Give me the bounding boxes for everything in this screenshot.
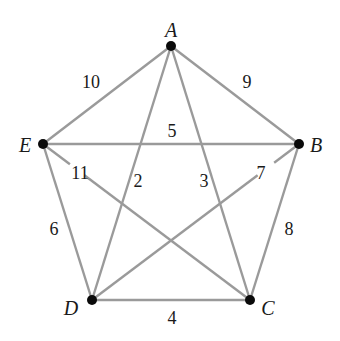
weight-label-ad: 2 xyxy=(134,171,143,191)
weight-label-bc: 8 xyxy=(285,219,294,239)
edge-a-e-line xyxy=(43,46,171,144)
vertex-b-dot xyxy=(294,139,304,149)
vertex-label-a: A xyxy=(163,19,178,41)
vertex-label-b: B xyxy=(310,134,322,156)
vertex-e-dot xyxy=(38,139,48,149)
edge-a-e xyxy=(43,46,171,144)
edge-b-d xyxy=(92,144,299,300)
vertex-labels-layer: ABCDE xyxy=(18,19,322,319)
weight-label-ac: 3 xyxy=(200,171,209,191)
edge-a-b-line xyxy=(171,46,299,144)
weight-label-dc: 4 xyxy=(168,308,177,328)
edge-a-c-line xyxy=(171,46,250,300)
edge-a-d-line xyxy=(92,46,171,300)
vertex-label-e: E xyxy=(18,134,31,156)
weight-label-ab: 9 xyxy=(243,72,252,92)
weight-label-bd: 7 xyxy=(257,163,266,183)
weight-label-ec: 11 xyxy=(71,163,88,183)
vertex-label-d: D xyxy=(63,297,79,319)
edge-a-b xyxy=(171,46,299,144)
edge-e-c-segment xyxy=(84,175,250,300)
edge-b-d-segment xyxy=(92,175,258,300)
vertex-d-dot xyxy=(87,295,97,305)
weight-label-ed: 6 xyxy=(50,219,59,239)
edge-a-d xyxy=(92,46,171,300)
weight-label-ae: 10 xyxy=(82,72,100,92)
weight-label-eb: 5 xyxy=(168,121,177,141)
graph-diagram: 109523117684 ABCDE xyxy=(0,0,340,341)
vertex-a-dot xyxy=(166,41,176,51)
vertex-c-dot xyxy=(245,295,255,305)
edge-a-c xyxy=(171,46,250,300)
vertex-label-c: C xyxy=(261,297,275,319)
